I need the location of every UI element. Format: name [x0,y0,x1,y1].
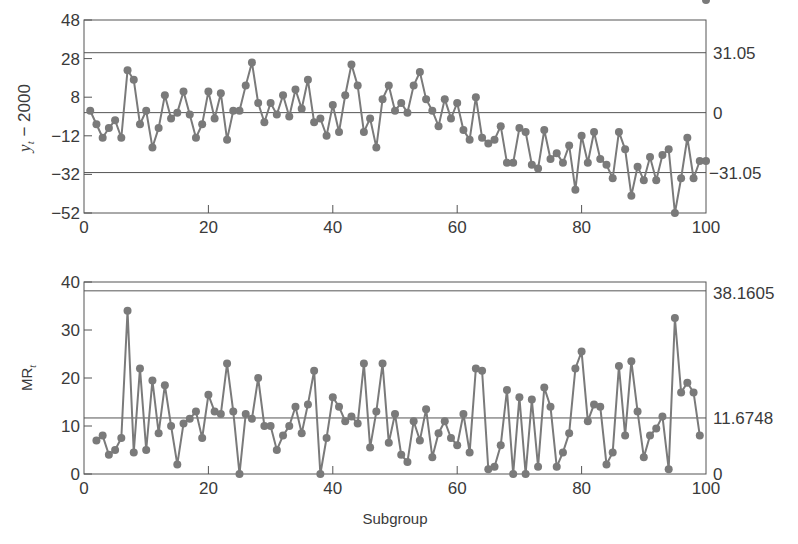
data-point [99,432,107,440]
data-point [416,68,424,76]
y-tick-label: 40 [61,273,80,292]
bottom-cl-label: 11.6748 [713,409,773,428]
data-point [646,432,654,440]
data-point [273,111,281,119]
data-point [696,432,704,440]
data-point [298,105,306,113]
bottom-x-axis-ticks: 020406080100 [79,466,720,498]
data-point [683,379,691,387]
data-point [410,82,418,90]
data-point [453,441,461,449]
data-point [204,391,212,399]
data-point [186,415,194,423]
data-point [155,124,163,132]
data-point [86,107,94,115]
data-point [366,114,374,122]
bottom-y-axis-label: MRt [18,365,38,391]
top-cl-label: 0 [713,104,722,123]
data-point [323,132,331,140]
data-point [204,87,212,95]
data-point [310,367,318,375]
data-point [609,174,617,182]
data-point [528,396,536,404]
data-point [491,136,499,144]
data-point [422,405,430,413]
data-point [472,93,480,101]
x-tick-label: 0 [79,218,88,237]
data-point [702,0,710,4]
data-point [173,109,181,117]
data-point [372,408,380,416]
data-point [285,113,293,121]
data-point [534,165,542,173]
data-point [347,60,355,68]
data-point [236,470,244,478]
data-point [124,307,132,315]
data-point [329,393,337,401]
data-point [497,441,505,449]
data-point [279,432,287,440]
data-point [540,126,548,134]
data-point [217,410,225,418]
data-point [360,360,368,368]
data-point [677,388,685,396]
data-point [267,99,275,107]
control-charts: 48288−12−32−52 020406080100 31.05 0 −31.… [0,0,798,544]
data-point [422,95,430,103]
data-point [111,116,119,124]
data-point [658,151,666,159]
data-point [553,149,561,157]
data-point [677,174,685,182]
data-point [397,99,405,107]
data-point [652,176,660,184]
data-point [466,136,474,144]
data-point [584,417,592,425]
data-point [571,186,579,194]
data-point [459,410,467,418]
y-tick-label: 28 [61,50,80,69]
data-point [466,448,474,456]
data-point [540,384,548,392]
data-point [136,120,144,128]
x-tick-label: 100 [692,218,720,237]
bottom-y-axis-ticks: 010203040 [61,273,92,484]
x-tick-label: 20 [199,218,218,237]
data-point [547,155,555,163]
data-point [671,314,679,322]
data-point [447,114,455,122]
data-point [167,114,175,122]
bottom-series-line [96,311,699,474]
data-point [217,89,225,97]
data-point [683,134,691,142]
data-point [186,111,194,119]
data-point [316,114,324,122]
data-point [379,95,387,103]
data-point [360,128,368,136]
data-point [354,82,362,90]
data-point [547,403,555,411]
data-point [640,453,648,461]
data-point [148,143,156,151]
bottom-series-markers [92,0,710,478]
data-point [478,134,486,142]
data-point [509,470,517,478]
data-point [229,408,237,416]
data-point [111,446,119,454]
data-point [459,126,467,134]
bottom-ylabel-var: MR [18,368,35,391]
data-point [584,159,592,167]
top-ylabel-rest: − 2000 [15,84,34,141]
data-point [671,209,679,217]
data-point [665,145,673,153]
data-point [565,429,573,437]
data-point [273,446,281,454]
top-lcl-label: −31.05 [709,164,761,183]
data-point [142,107,150,115]
data-point [155,429,163,437]
data-point [248,415,256,423]
y-tick-label: −52 [51,204,80,223]
bottom-ylabel-sub: t [27,365,38,368]
data-point [602,460,610,468]
data-point [615,128,623,136]
x-tick-label: 40 [323,218,342,237]
